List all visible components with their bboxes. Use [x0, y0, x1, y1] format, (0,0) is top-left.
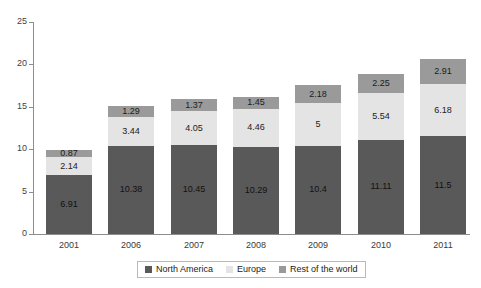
bar-segment[interactable]: 6.18	[420, 84, 466, 136]
bar-segment[interactable]: 3.44	[108, 117, 154, 146]
x-axis-tick-label: 2007	[164, 240, 224, 250]
bar-segment[interactable]: 2.14	[46, 157, 92, 175]
legend-item[interactable]: Europe	[226, 265, 266, 274]
bar-segment[interactable]: 10.4	[295, 146, 341, 234]
x-axis-tick-label: 2001	[39, 240, 99, 250]
bar-value-label: 3.44	[122, 127, 140, 136]
bar-segment[interactable]: 0.87	[46, 150, 92, 157]
y-axis-tick-label: 5	[0, 187, 27, 196]
y-axis-tick-label-text: 25	[3, 17, 27, 26]
x-axis-tick-label: 2008	[226, 240, 286, 250]
x-axis-tick-label: 2009	[288, 240, 348, 250]
bar-value-label: 5.54	[372, 112, 390, 121]
y-axis-tick	[29, 234, 34, 235]
bar-segment[interactable]: 5.54	[358, 93, 404, 140]
chart-legend: North AmericaEuropeRest of the world	[137, 261, 366, 278]
x-axis-tick-label: 2011	[413, 240, 473, 250]
y-axis-tick-label-text: 20	[3, 59, 27, 68]
legend-item[interactable]: Rest of the world	[279, 265, 358, 274]
y-axis-tick-label: 0	[0, 229, 27, 238]
bar-segment[interactable]: 5	[295, 103, 341, 145]
y-axis-tick-label: 25	[0, 17, 27, 26]
bar-segment[interactable]: 10.45	[171, 145, 217, 234]
bar-segment[interactable]: 6.91	[46, 175, 92, 234]
y-axis-tick-label-text: 5	[3, 187, 27, 196]
bar-value-label: 11.5	[435, 181, 452, 190]
x-axis-tick-label: 2006	[101, 240, 161, 250]
x-axis-tick-label: 2010	[351, 240, 411, 250]
bar-segment[interactable]: 2.25	[358, 74, 404, 93]
legend-label: Rest of the world	[290, 265, 358, 274]
y-axis-tick-label-text: 0	[3, 229, 27, 238]
stacked-bar-chart: 0510152025 6.912.140.8710.383.441.2910.4…	[0, 0, 481, 288]
bar-value-label: 11.11	[370, 182, 391, 191]
bar-value-label: 0.87	[60, 149, 78, 158]
y-axis-tick-label: 10	[0, 144, 27, 153]
bar-segment[interactable]: 1.29	[108, 106, 154, 117]
bar-segment[interactable]: 11.5	[420, 136, 466, 234]
bar-value-label: 5	[315, 120, 320, 129]
legend-label: Europe	[237, 265, 266, 274]
bar-value-label: 2.14	[60, 162, 78, 171]
bar-value-label: 2.25	[372, 79, 390, 88]
legend-swatch-icon	[145, 266, 152, 273]
plot-area: 6.912.140.8710.383.441.2910.454.051.3710…	[34, 22, 470, 234]
bar-value-label: 10.38	[120, 185, 143, 194]
bar-segment[interactable]: 2.91	[420, 59, 466, 84]
y-axis-tick-label: 15	[0, 102, 27, 111]
bar-value-label: 4.05	[185, 124, 203, 133]
bar-value-label: 6.18	[434, 106, 452, 115]
y-axis-tick-label-text: 10	[3, 144, 27, 153]
bar-segment[interactable]: 2.18	[295, 85, 341, 103]
y-axis-tick-label-text: 15	[3, 102, 27, 111]
legend-swatch-icon	[279, 266, 286, 273]
bar-segment[interactable]: 10.29	[233, 147, 279, 234]
bar-segment[interactable]: 1.37	[171, 99, 217, 111]
bar-value-label: 10.29	[245, 186, 268, 195]
legend-item[interactable]: North America	[145, 265, 213, 274]
bar-value-label: 10.45	[183, 185, 206, 194]
bar-segment[interactable]: 4.46	[233, 109, 279, 147]
bar-segment[interactable]: 11.11	[358, 140, 404, 234]
bar-value-label: 1.37	[185, 101, 203, 110]
x-axis-line	[33, 234, 470, 235]
legend-swatch-icon	[226, 266, 233, 273]
bar-value-label: 1.29	[122, 107, 140, 116]
bar-value-label: 4.46	[247, 123, 265, 132]
bar-value-label: 2.18	[309, 90, 327, 99]
bar-segment[interactable]: 10.38	[108, 146, 154, 234]
bar-value-label: 6.91	[60, 200, 78, 209]
legend-label: North America	[156, 265, 213, 274]
bar-segment[interactable]: 4.05	[171, 111, 217, 145]
bar-value-label: 1.45	[247, 98, 265, 107]
bar-value-label: 10.4	[309, 185, 327, 194]
y-axis-tick-label: 20	[0, 59, 27, 68]
bar-value-label: 2.91	[434, 67, 452, 76]
bar-segment[interactable]: 1.45	[233, 97, 279, 109]
